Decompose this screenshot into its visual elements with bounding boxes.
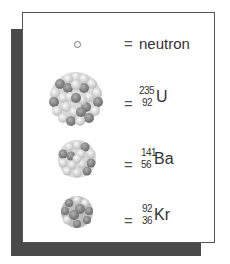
atomic-number: 36 (142, 215, 152, 226)
equals-sign: = (124, 212, 133, 229)
barium-nucleus-icon (57, 139, 97, 179)
atomic-number: 92 (142, 97, 152, 108)
neutron-icon (74, 41, 81, 48)
barium-isotope-label: 141 56 Ba (139, 147, 209, 177)
uranium-isotope-label: 235 92 U (139, 85, 209, 115)
uranium-nucleus-icon (48, 70, 104, 126)
element-symbol: U (156, 88, 168, 106)
krypton-isotope-label: 92 36 Kr (139, 203, 209, 233)
mass-number: 235 (139, 85, 154, 96)
legend-panel: = neutron (22, 12, 215, 243)
krypton-nucleus-icon (60, 195, 94, 229)
equals-sign: = (124, 35, 133, 52)
equals-sign: = (124, 156, 133, 173)
neutron-label: neutron (139, 35, 190, 52)
atomic-number: 56 (141, 159, 151, 170)
equals-sign: = (124, 95, 133, 112)
mass-number: 92 (142, 203, 152, 214)
element-symbol: Kr (154, 206, 170, 224)
element-symbol: Ba (154, 150, 174, 168)
